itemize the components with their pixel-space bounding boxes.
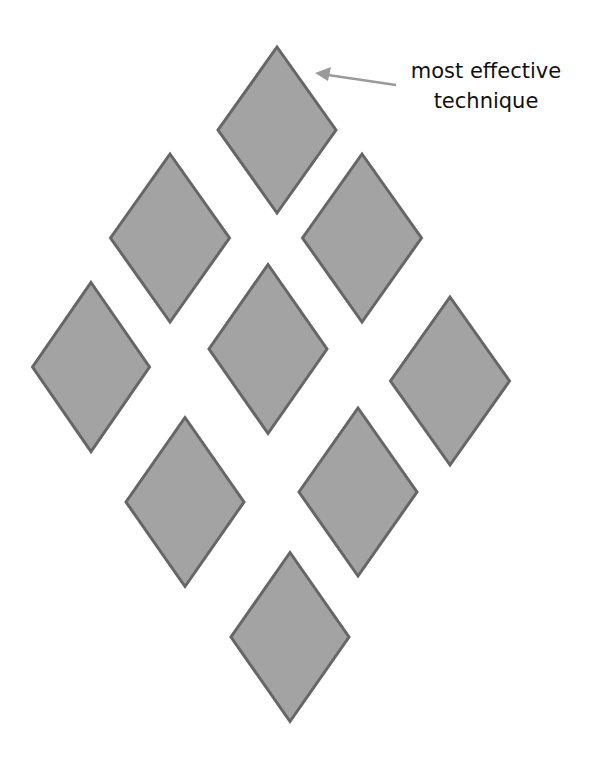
diamond-bottom [231, 553, 349, 722]
diamond-left [33, 283, 150, 452]
diamond-diagram: most effective technique [0, 0, 611, 765]
arrow-head-icon [315, 67, 331, 81]
arrow-shaft [328, 75, 396, 85]
diamond-upper-left [111, 154, 230, 322]
annotation-line-1: most effective [411, 59, 561, 83]
diamond-center [209, 265, 327, 434]
diamond-lower-left [126, 418, 244, 587]
diamond-right [391, 297, 510, 465]
annotation-arrow [315, 67, 396, 85]
diamond-upper-right [303, 154, 422, 322]
diamond-lower-right [299, 408, 417, 576]
diamond-group [33, 47, 510, 722]
annotation-line-2: technique [434, 89, 539, 113]
